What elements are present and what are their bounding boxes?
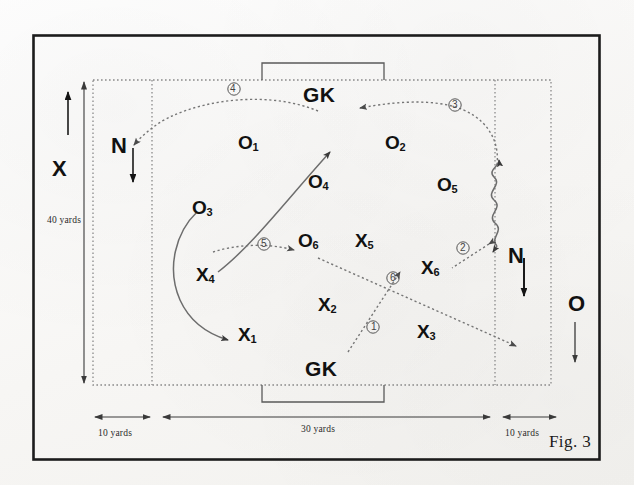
player-o5-letter: O — [437, 174, 451, 195]
figure-root: GK GK N N X O O1 O2 O3 O4 O5 O6 X1 X2 X3… — [0, 0, 634, 485]
player-x2-letter: X — [318, 294, 330, 315]
player-x2-number: 2 — [330, 303, 336, 315]
player-o6-number: 6 — [312, 239, 318, 251]
player-x6: X6 — [421, 258, 439, 277]
pass-path-4 — [134, 99, 318, 145]
player-x6-letter: X — [421, 257, 433, 278]
sequence-marker-3: 3 — [452, 100, 458, 110]
run-path-x4-upfield — [218, 152, 330, 272]
dimension-height-label: 40 yards — [47, 215, 81, 225]
pass-path-5 — [213, 245, 294, 252]
neutral-left-label: N — [111, 135, 127, 157]
player-o2-number: 2 — [399, 141, 405, 153]
player-o2-letter: O — [385, 132, 399, 153]
player-o3-letter: O — [192, 197, 206, 218]
player-o2: O2 — [385, 133, 405, 152]
player-x4-number: 4 — [208, 273, 214, 285]
neutral-right-label: N — [508, 245, 524, 267]
player-x1: X1 — [238, 325, 256, 344]
player-o4-letter: O — [308, 171, 322, 192]
player-o1-letter: O — [238, 132, 252, 153]
player-x3: X3 — [417, 322, 435, 341]
sequence-marker-4: 4 — [230, 84, 236, 94]
player-o5-number: 5 — [451, 183, 457, 195]
pass-path-2 — [452, 244, 489, 268]
goal-top — [262, 63, 384, 80]
player-x4-letter: X — [196, 264, 208, 285]
dimension-middle-zone-label: 30 yards — [301, 424, 335, 434]
sequence-marker-1: 1 — [371, 322, 377, 332]
player-x5-letter: X — [355, 230, 367, 251]
player-o1-number: 1 — [252, 141, 258, 153]
field-boundary — [93, 80, 551, 385]
player-x2: X2 — [318, 295, 336, 314]
dimension-right-zone-label: 10 yards — [505, 428, 539, 438]
player-o1: O1 — [238, 133, 258, 152]
key-x-label: X — [52, 158, 67, 180]
goalkeeper-top-label: GK — [303, 84, 336, 105]
dribble-path-right-tail — [493, 246, 497, 252]
sequence-marker-6: 6 — [390, 273, 396, 283]
player-o3-number: 3 — [206, 206, 212, 218]
player-x6-number: 6 — [433, 266, 439, 278]
sequence-marker-5: 5 — [261, 239, 267, 249]
player-x1-number: 1 — [250, 333, 256, 345]
key-o-label: O — [568, 293, 585, 315]
player-x3-letter: X — [417, 321, 429, 342]
player-x5: X5 — [355, 231, 373, 250]
goal-bottom — [262, 385, 384, 402]
pass-path-3 — [360, 102, 497, 165]
player-o4-number: 4 — [322, 180, 328, 192]
player-x4: X4 — [196, 265, 214, 284]
player-o5: O5 — [437, 175, 457, 194]
goalkeeper-bottom-label: GK — [305, 358, 338, 379]
player-x3-number: 3 — [429, 330, 435, 342]
dimension-left-zone-label: 10 yards — [98, 428, 132, 438]
figure-caption: Fig. 3 — [549, 432, 591, 452]
player-x1-letter: X — [238, 324, 250, 345]
player-o3: O3 — [192, 198, 212, 217]
player-x5-number: 5 — [367, 239, 373, 251]
player-o6-letter: O — [298, 230, 312, 251]
player-o4: O4 — [308, 172, 328, 191]
sequence-marker-2: 2 — [460, 243, 466, 253]
player-o6: O6 — [298, 231, 318, 250]
